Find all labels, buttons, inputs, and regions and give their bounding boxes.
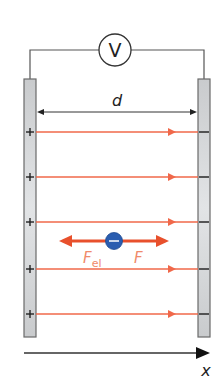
field-line	[36, 218, 198, 226]
field-line	[36, 310, 198, 318]
x-axis-arrow	[24, 347, 210, 359]
x-axis-label: x	[200, 361, 211, 379]
field-lines	[36, 128, 198, 318]
electric-force-arrow	[59, 235, 110, 247]
distance-dimension: d	[37, 91, 197, 115]
electric-force-label: Fel	[83, 249, 101, 270]
right-plate-negative	[198, 79, 210, 337]
applied-force-arrow	[118, 235, 169, 247]
field-line	[36, 265, 198, 273]
field-line	[36, 128, 198, 136]
voltmeter-icon: V	[99, 34, 131, 66]
capacitor-diagram: V d	[0, 0, 223, 379]
negative-charge-particle	[106, 233, 123, 250]
left-plate-positive	[24, 79, 36, 337]
voltmeter-label: V	[109, 39, 122, 61]
distance-label: d	[112, 91, 123, 110]
applied-force-label: F	[134, 249, 143, 267]
field-line	[36, 173, 198, 181]
